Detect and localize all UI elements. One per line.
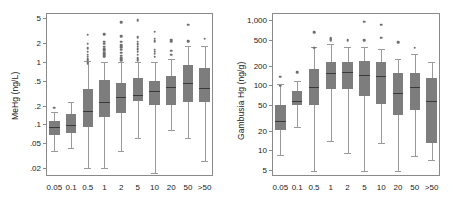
outlier-point bbox=[137, 50, 140, 53]
x-tick-label: 10 bbox=[377, 183, 386, 192]
whisker-cap-lower bbox=[101, 168, 108, 169]
whisker-upper bbox=[314, 47, 315, 69]
whisker-upper bbox=[432, 62, 433, 78]
outlier-point bbox=[86, 47, 89, 50]
median-line bbox=[359, 75, 369, 76]
whisker-upper bbox=[121, 62, 122, 83]
y-tick-mark bbox=[43, 18, 46, 19]
whisker-cap-upper bbox=[101, 62, 108, 63]
whisker-upper bbox=[364, 47, 365, 62]
outlier-point bbox=[120, 21, 123, 24]
whisker-cap-lower bbox=[201, 161, 208, 162]
outlier-point bbox=[153, 49, 156, 52]
whisker-cap-lower bbox=[118, 151, 125, 152]
box bbox=[426, 78, 436, 143]
whisker-cap-upper bbox=[294, 81, 301, 82]
y-tick-label: .1 bbox=[34, 120, 41, 129]
outlier-point bbox=[279, 76, 282, 79]
whisker-cap-upper bbox=[185, 46, 192, 47]
outlier-point bbox=[153, 55, 156, 58]
y-tick-label: 1,000 bbox=[247, 16, 267, 25]
outlier-point bbox=[397, 41, 400, 44]
outlier-point bbox=[296, 71, 299, 74]
box bbox=[166, 76, 176, 105]
median-line bbox=[99, 102, 109, 103]
box bbox=[275, 105, 285, 130]
whisker-upper bbox=[54, 112, 55, 120]
y-tick-mark bbox=[269, 150, 272, 151]
whisker-cap-lower bbox=[428, 160, 435, 161]
median-line bbox=[183, 83, 193, 84]
whisker-upper bbox=[348, 47, 349, 62]
whisker-cap-upper bbox=[135, 62, 142, 63]
outlier-point bbox=[86, 62, 89, 65]
box bbox=[326, 62, 336, 89]
outlier-point bbox=[153, 31, 156, 34]
outlier-point bbox=[120, 40, 123, 43]
outlier-point bbox=[103, 48, 106, 51]
panel-mehg: MeHg (ng/L) 521.5.2.1.05.020.050.10.5125… bbox=[0, 0, 227, 213]
x-tick-label: 0.05 bbox=[273, 183, 289, 192]
median-line bbox=[275, 121, 285, 122]
outlier-point bbox=[137, 57, 140, 60]
x-tick-label: 0.1 bbox=[65, 183, 76, 192]
whisker-cap-lower bbox=[378, 143, 385, 144]
whisker-cap-lower bbox=[135, 138, 142, 139]
y-tick-label: 10 bbox=[258, 146, 267, 155]
whisker-cap-upper bbox=[411, 54, 418, 55]
whisker-cap-lower bbox=[327, 141, 334, 142]
outlier-point bbox=[137, 45, 140, 48]
box bbox=[49, 121, 59, 135]
whisker-cap-lower bbox=[411, 156, 418, 157]
outlier-point bbox=[170, 38, 173, 41]
outlier-point bbox=[137, 19, 140, 22]
x-tick-label: 2 bbox=[345, 183, 349, 192]
y-tick-mark bbox=[43, 81, 46, 82]
box bbox=[199, 68, 209, 103]
whisker-cap-upper bbox=[428, 62, 435, 63]
box bbox=[410, 73, 420, 110]
outlier-point bbox=[187, 40, 190, 43]
whisker-cap-lower bbox=[151, 173, 158, 174]
outlier-point bbox=[203, 37, 206, 40]
x-tick-label: 0.5 bbox=[308, 183, 319, 192]
panel-gambusia: Gambusia Hg (ng/g) 1,0005002001005020105… bbox=[227, 0, 453, 213]
outlier-point bbox=[279, 85, 282, 88]
whisker-cap-lower bbox=[68, 148, 75, 149]
whisker-lower bbox=[205, 102, 206, 161]
whisker-lower bbox=[348, 89, 349, 153]
outlier-point bbox=[414, 46, 417, 49]
whisker-cap-lower bbox=[311, 171, 318, 172]
whisker-lower bbox=[188, 102, 189, 138]
whisker-cap-upper bbox=[151, 62, 158, 63]
outlier-point bbox=[86, 50, 89, 53]
whisker-lower bbox=[171, 105, 172, 131]
whisker-lower bbox=[280, 130, 281, 155]
y-tick-mark bbox=[269, 20, 272, 21]
outlier-point bbox=[363, 21, 366, 24]
y-tick-mark bbox=[269, 131, 272, 132]
outlier-point bbox=[187, 23, 190, 26]
median-line bbox=[410, 87, 420, 88]
x-tick-label: 0.05 bbox=[47, 183, 63, 192]
whisker-cap-lower bbox=[51, 151, 58, 152]
whisker-cap-lower bbox=[294, 127, 301, 128]
whisker-lower bbox=[381, 104, 382, 143]
whisker-upper bbox=[104, 62, 105, 81]
whisker-upper bbox=[381, 49, 382, 62]
whisker-upper bbox=[71, 102, 72, 113]
outlier-point bbox=[103, 40, 106, 43]
whisker-lower bbox=[104, 117, 105, 169]
y-tick-label: 2 bbox=[37, 38, 41, 47]
x-tick-label: 0.1 bbox=[292, 183, 303, 192]
median-line bbox=[66, 125, 76, 126]
box bbox=[99, 80, 109, 116]
whisker-cap-upper bbox=[395, 59, 402, 60]
median-line bbox=[393, 93, 403, 94]
whisker-cap-upper bbox=[344, 47, 351, 48]
whisker-cap-upper bbox=[361, 47, 368, 48]
median-line bbox=[166, 87, 176, 88]
outlier-point bbox=[86, 42, 89, 45]
outlier-point bbox=[86, 53, 89, 56]
y-tick-label: .5 bbox=[34, 76, 41, 85]
